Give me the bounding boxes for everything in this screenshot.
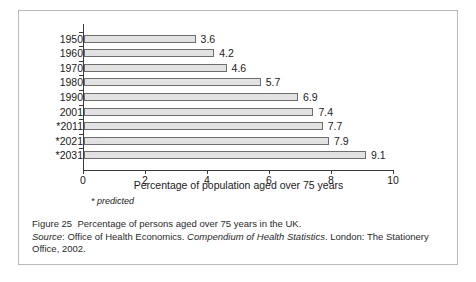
caption-figure-label: Figure 25: [32, 218, 72, 229]
category-axis-labels: 1950 1960 1970 1980 1990 2001 *2011 *202…: [27, 11, 83, 171]
y-axis-tick: [79, 134, 83, 135]
bar-value-label: 5.7: [266, 77, 281, 87]
bar-value-label: 7.9: [334, 136, 349, 146]
caption-source-line-2: Office, 2002.: [32, 243, 450, 256]
category-label: 2001: [29, 107, 83, 117]
bar-value-label: 4.2: [219, 48, 234, 58]
x-axis-title: Percentage of population aged over 75 ye…: [83, 179, 394, 191]
bar: [84, 108, 313, 116]
bar-chart: 1950 1960 1970 1980 1990 2001 *2011 *202…: [19, 11, 459, 211]
y-axis-tick: [79, 90, 83, 91]
bar-value-label: 7.7: [328, 121, 343, 131]
category-label: 1980: [29, 77, 83, 87]
bar: [84, 93, 298, 101]
bar: [84, 151, 366, 159]
figure-frame: 1950 1960 1970 1980 1990 2001 *2011 *202…: [18, 10, 458, 265]
y-axis-tick: [79, 105, 83, 106]
figure-caption: Figure 25 Percentage of persons aged ove…: [32, 218, 450, 256]
y-axis-tick: [79, 75, 83, 76]
category-label: 1950: [29, 34, 83, 44]
category-label: *2011: [29, 121, 83, 131]
caption-source-title: Compendium of Health Statistics: [187, 231, 325, 242]
caption-source-line: Source: Office of Health Economics. Comp…: [32, 231, 450, 244]
bar-value-label: 9.1: [371, 150, 386, 160]
bar: [84, 78, 261, 86]
caption-source-publisher: : Office of Health Economics.: [62, 231, 184, 242]
bar-value-label: 3.6: [201, 34, 216, 44]
predicted-footnote: * predicted: [91, 196, 134, 206]
category-label: *2031: [29, 150, 83, 160]
bar-value-label: 7.4: [318, 107, 333, 117]
bar-value-label: 6.9: [303, 92, 318, 102]
x-axis-line: [83, 170, 394, 171]
bar: [84, 35, 196, 43]
y-axis-tick: [79, 61, 83, 62]
caption-figure-text: Percentage of persons aged over 75 years…: [77, 218, 301, 229]
category-label: 1960: [29, 48, 83, 58]
bar: [84, 49, 214, 57]
category-label: *2021: [29, 136, 83, 146]
plot-area: 0246810 3.64.24.65.76.97.47.77.99.1: [83, 24, 393, 170]
y-axis-tick: [79, 46, 83, 47]
caption-source-rest: . London: The Stationery: [325, 231, 429, 242]
bar: [84, 122, 323, 130]
y-axis-tick: [79, 119, 83, 120]
y-axis-tick: [79, 32, 83, 33]
bar: [84, 137, 329, 145]
caption-source-label: Source: [32, 231, 62, 242]
category-label: 1990: [29, 92, 83, 102]
y-axis-tick: [79, 148, 83, 149]
bar: [84, 64, 227, 72]
caption-figure-line: Figure 25 Percentage of persons aged ove…: [32, 218, 450, 231]
category-label: 1970: [29, 63, 83, 73]
bar-value-label: 4.6: [232, 63, 247, 73]
